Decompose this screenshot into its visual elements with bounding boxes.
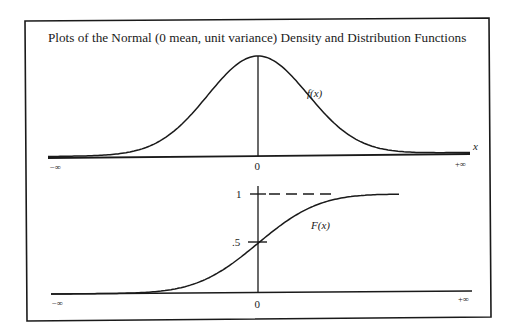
distribution-tick-zero: 0 <box>255 298 261 310</box>
density-curve <box>48 56 470 157</box>
density-tick-zero: 0 <box>255 160 261 172</box>
density-plot: f(x) x −∞ 0 +∞ <box>48 56 478 172</box>
y-tick-one-label: 1 <box>236 188 242 200</box>
distribution-plot: 1 .5 F(x) −∞ 0 +∞ <box>51 186 472 310</box>
distribution-curve-label: F(x) <box>310 219 330 232</box>
distribution-tick-pos-inf: +∞ <box>458 294 469 304</box>
figure-canvas: Plots of the Normal (0 mean, unit varian… <box>0 0 513 334</box>
x-axis-label: x <box>472 140 478 152</box>
distribution-tick-neg-inf: −∞ <box>52 298 63 308</box>
density-tick-pos-inf: +∞ <box>455 159 466 169</box>
figure-title: Plots of the Normal (0 mean, unit varian… <box>48 30 466 45</box>
density-tick-neg-inf: −∞ <box>50 162 61 172</box>
density-curve-label: f(x) <box>307 87 323 100</box>
distribution-curve <box>51 194 399 294</box>
y-tick-half-label: .5 <box>232 236 241 248</box>
